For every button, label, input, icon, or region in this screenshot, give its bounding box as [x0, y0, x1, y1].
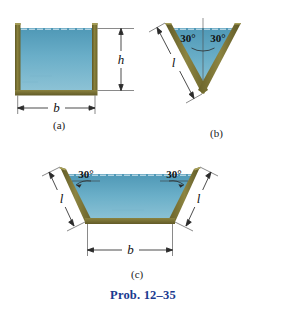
dimension-b-label-c: b	[127, 242, 134, 257]
channel-wall-left-a	[15, 23, 21, 90]
angle-label-right-c: 30°	[166, 168, 181, 180]
subfigure-b: 30° 30° l	[148, 10, 280, 115]
subfigure-label-a: (a)	[53, 119, 65, 131]
trapezoidal-channel-drawing: 30° 30° l l	[28, 158, 263, 270]
dimension-l-right-label-c: l	[197, 191, 201, 206]
angle-label-left-b: 30°	[180, 32, 195, 44]
subfigure-a: h b	[8, 10, 138, 115]
subfigure-c: 30° 30° l l	[28, 158, 263, 270]
subfigure-label-c: (c)	[131, 268, 143, 280]
v-channel-drawing: 30° 30° l	[148, 10, 280, 115]
figure-caption: Prob. 12–35	[0, 288, 286, 303]
rectangular-channel-drawing: h b	[8, 10, 138, 115]
angle-label-left-c: 30°	[78, 168, 93, 180]
dimension-b-label-a: b	[53, 100, 60, 115]
subfigure-label-b: (b)	[210, 127, 223, 139]
channel-wall-bottom-c	[85, 218, 175, 224]
dimension-h-label-a: h	[118, 52, 125, 67]
angle-label-right-b: 30°	[210, 32, 225, 44]
wall-cap-left-a	[15, 23, 21, 25]
wall-cap-right-b	[234, 23, 241, 25]
channel-wall-right-a	[92, 23, 98, 90]
water-body-a	[20, 28, 92, 90]
channel-wall-bottom-a	[15, 90, 98, 96]
dimension-l-left-label-c: l	[60, 191, 64, 206]
wall-cap-left-b	[165, 23, 172, 25]
wall-cap-right-a	[92, 23, 98, 25]
dimension-l-label-b: l	[172, 55, 176, 70]
